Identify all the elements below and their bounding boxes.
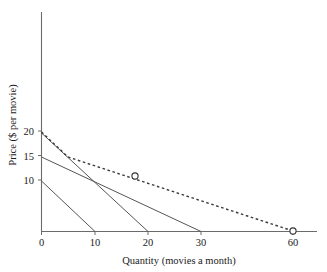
- economics-demand-chart: 20 15 10 0 10 20 30 60 Quantity (movies …: [0, 0, 327, 272]
- y-tick-label-15: 15: [24, 151, 35, 162]
- x-tick-label-20: 20: [143, 237, 154, 248]
- marker-intercept: [290, 228, 296, 234]
- demand-line-15-30: [42, 157, 202, 232]
- y-axis-title: Price ($ per movie): [7, 84, 19, 166]
- x-axis-title: Quantity (movies a month): [122, 255, 236, 267]
- x-tick-label-10: 10: [90, 237, 101, 248]
- x-tick-label-0: 0: [39, 237, 44, 248]
- y-tick-label-10: 10: [24, 175, 35, 186]
- marker-mid: [132, 173, 138, 179]
- demand-line-10-10: [42, 181, 96, 232]
- x-tick-label-60: 60: [288, 237, 299, 248]
- chart-canvas: 20 15 10 0 10 20 30 60 Quantity (movies …: [0, 0, 327, 272]
- y-tick-label-20: 20: [24, 126, 35, 137]
- x-tick-label-30: 30: [196, 237, 207, 248]
